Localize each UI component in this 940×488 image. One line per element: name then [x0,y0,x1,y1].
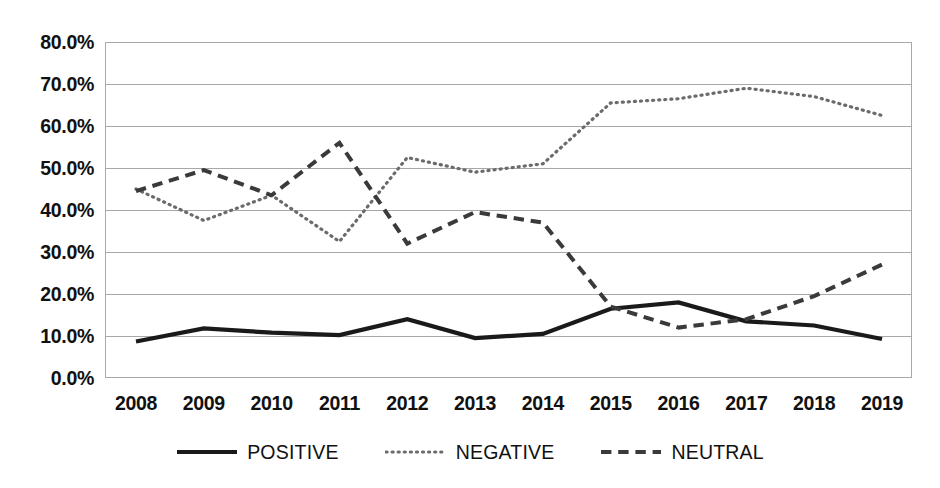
y-tick-label: 30.0% [0,241,94,264]
x-tick-label: 2019 [861,392,903,415]
x-axis: 2008200920102011201220132014201520162017… [0,392,940,422]
series-line-positive [136,302,882,341]
line-chart: 0.0%10.0%20.0%30.0%40.0%50.0%60.0%70.0%8… [0,0,940,488]
x-tick-label: 2008 [115,392,157,415]
chart-legend: POSITIVENEGATIVENEUTRAL [0,432,940,472]
y-tick-label: 70.0% [0,73,94,96]
y-tick-label: 0.0% [0,367,94,390]
legend-swatch-dotted [385,445,447,459]
legend-swatch-solid [176,445,238,459]
series-line-neutral [136,143,882,328]
legend-item-negative[interactable]: NEGATIVE [385,441,555,464]
x-tick-label: 2012 [386,392,428,415]
legend-label: NEGATIVE [456,441,555,464]
y-tick-label: 60.0% [0,115,94,138]
y-tick-label: 20.0% [0,283,94,306]
series-layer [105,42,912,378]
x-tick-label: 2016 [657,392,699,415]
y-tick-label: 40.0% [0,199,94,222]
legend-label: NEUTRAL [671,441,763,464]
x-tick-label: 2018 [793,392,835,415]
plot-area [105,42,912,378]
y-tick-label: 80.0% [0,31,94,54]
y-axis: 0.0%10.0%20.0%30.0%40.0%50.0%60.0%70.0%8… [0,42,94,378]
x-tick-label: 2013 [454,392,496,415]
x-tick-label: 2011 [319,392,360,415]
legend-item-neutral[interactable]: NEUTRAL [600,441,763,464]
x-tick-label: 2014 [522,392,564,415]
series-line-negative [136,88,882,241]
legend-item-positive[interactable]: POSITIVE [176,441,339,464]
x-tick-label: 2009 [183,392,225,415]
legend-label: POSITIVE [247,441,339,464]
x-tick-label: 2017 [725,392,767,415]
y-tick-label: 10.0% [0,325,94,348]
x-tick-label: 2015 [590,392,632,415]
legend-swatch-dashed [600,445,662,459]
x-tick-label: 2010 [251,392,293,415]
y-tick-label: 50.0% [0,157,94,180]
